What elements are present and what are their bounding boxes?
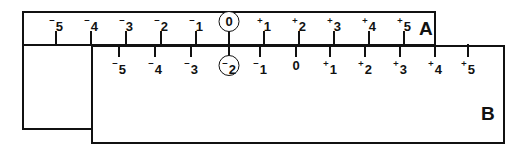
- circled-reading: ⁻2: [219, 55, 240, 76]
- tick-digit: 1: [264, 19, 271, 34]
- tick-digit: 2: [365, 62, 372, 77]
- tick-digit: 1: [260, 62, 267, 77]
- upper-scale: ⁻5⁻4⁻3⁻2⁻10⁺1⁺2⁺3⁺4⁺5: [0, 0, 519, 46]
- minus-sign: ⁻: [148, 59, 154, 71]
- tick-mark: [259, 44, 261, 57]
- tick-digit: 5: [468, 62, 475, 77]
- minus-sign: ⁻: [119, 16, 125, 28]
- tick-mark: [295, 44, 297, 57]
- tick-digit: 4: [435, 62, 442, 77]
- slide-a-letter-label: A: [419, 19, 433, 38]
- tick-label: ⁺3: [327, 16, 341, 33]
- minus-sign: ⁻: [49, 16, 55, 28]
- tick-digit: 3: [191, 62, 198, 77]
- plus-sign: ⁺: [323, 59, 329, 71]
- tick-label: ⁺1: [257, 16, 271, 33]
- plus-sign: ⁺: [292, 16, 298, 28]
- tick-label: ⁻2: [154, 16, 168, 33]
- tick-label: ⁺4: [428, 59, 442, 76]
- plus-sign: ⁺: [327, 16, 333, 28]
- tick-mark: [329, 44, 331, 57]
- tick-label: ⁻3: [184, 59, 198, 76]
- tick-mark: [228, 31, 230, 45]
- plus-sign: ⁺: [257, 16, 263, 28]
- tick-digit: 0: [225, 14, 232, 29]
- tick-label: ⁺5: [461, 59, 475, 76]
- tick-label: ⁻1: [189, 16, 203, 33]
- tick-mark: [467, 44, 469, 57]
- tick-label: ⁺1: [323, 59, 337, 76]
- slide-b-letter-label: B: [481, 104, 495, 123]
- tick-mark: [190, 44, 192, 57]
- tick-mark: [154, 44, 156, 57]
- minus-sign: ⁻: [154, 16, 160, 28]
- tick-label: ⁻1: [253, 59, 267, 76]
- tick-mark: [399, 44, 401, 57]
- plus-sign: ⁺: [393, 59, 399, 71]
- plus-sign: ⁺: [397, 16, 403, 28]
- tick-label: ⁺2: [358, 59, 372, 76]
- tick-mark: [434, 44, 436, 57]
- tick-label: ⁻5: [49, 16, 63, 33]
- tick-label: ⁺3: [393, 59, 407, 76]
- tick-digit: 2: [299, 19, 306, 34]
- tick-digit: 4: [155, 62, 162, 77]
- tick-digit: 1: [196, 19, 203, 34]
- slide-rule-figure: ⁻5⁻4⁻3⁻2⁻10⁺1⁺2⁺3⁺4⁺5 ⁻5⁻4⁻3⁻2⁻10⁺1⁺2⁺3⁺…: [0, 0, 519, 152]
- plus-sign: ⁺: [362, 16, 368, 28]
- tick-label: ⁺5: [397, 16, 411, 33]
- tick-label: ⁻3: [119, 16, 133, 33]
- plus-sign: ⁺: [428, 59, 434, 71]
- tick-digit: 2: [229, 62, 236, 77]
- tick-digit: 1: [330, 62, 337, 77]
- tick-digit: 5: [56, 19, 63, 34]
- minus-sign: ⁻: [84, 16, 90, 28]
- tick-mark: [364, 44, 366, 57]
- minus-sign: ⁻: [222, 59, 228, 71]
- tick-label: ⁺2: [292, 16, 306, 33]
- lower-scale: ⁻5⁻4⁻3⁻2⁻10⁺1⁺2⁺3⁺4⁺5: [0, 44, 519, 84]
- tick-label: ⁺4: [362, 16, 376, 33]
- tick-digit: 0: [292, 58, 299, 73]
- minus-sign: ⁻: [184, 59, 190, 71]
- tick-label: ⁻4: [84, 16, 98, 33]
- circled-reading: 0: [219, 11, 240, 32]
- tick-label: 0: [292, 59, 299, 72]
- tick-digit: 2: [161, 19, 168, 34]
- tick-digit: 3: [400, 62, 407, 77]
- tick-label: ⁻4: [148, 59, 162, 76]
- tick-digit: 5: [404, 19, 411, 34]
- tick-digit: 5: [119, 62, 126, 77]
- tick-digit: 3: [126, 19, 133, 34]
- tick-digit: 4: [369, 19, 376, 34]
- plus-sign: ⁺: [461, 59, 467, 71]
- plus-sign: ⁺: [358, 59, 364, 71]
- tick-digit: 4: [91, 19, 98, 34]
- tick-mark: [118, 44, 120, 57]
- tick-label: ⁻5: [112, 59, 126, 76]
- minus-sign: ⁻: [189, 16, 195, 28]
- minus-sign: ⁻: [112, 59, 118, 71]
- tick-digit: 3: [334, 19, 341, 34]
- minus-sign: ⁻: [253, 59, 259, 71]
